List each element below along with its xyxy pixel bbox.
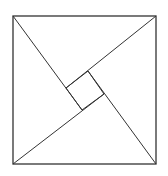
outer-square <box>13 16 156 164</box>
pythagorean-pinwheel-diagram <box>0 0 168 176</box>
inner-square <box>66 71 104 110</box>
